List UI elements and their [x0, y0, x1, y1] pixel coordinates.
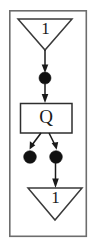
transition-q-label: Q [39, 106, 53, 127]
diagram-canvas: 1 Q 1 [0, 0, 96, 246]
petri-net-diagram: 1 Q 1 [0, 0, 96, 246]
token-right[interactable] [50, 151, 63, 164]
place-top-label: 1 [41, 19, 50, 38]
token-upper[interactable] [39, 72, 51, 84]
transition-q-group[interactable]: Q [21, 104, 73, 134]
place-bottom-label: 1 [51, 188, 60, 207]
token-left[interactable] [24, 151, 37, 164]
